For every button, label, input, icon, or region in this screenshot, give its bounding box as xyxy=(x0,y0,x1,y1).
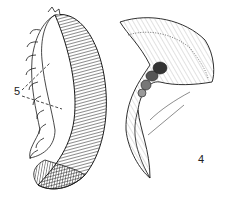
label-5: 5 xyxy=(14,86,20,97)
illustration-canvas: 5 4 xyxy=(0,0,231,202)
label-4: 4 xyxy=(198,154,204,165)
anatomical-drawing xyxy=(0,0,231,202)
left-specimen xyxy=(26,7,106,189)
